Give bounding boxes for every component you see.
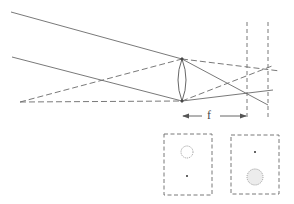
lens — [178, 58, 186, 102]
right-panel — [231, 135, 279, 194]
left-panel — [164, 134, 212, 195]
focal-length-label: f — [207, 108, 211, 122]
solid-rays — [11, 12, 273, 105]
dashed-rays — [20, 59, 280, 102]
blur-circle — [247, 169, 263, 185]
point-image — [254, 151, 256, 153]
blur-circle — [181, 146, 193, 158]
upper-incident-ray — [11, 12, 182, 59]
near-source-axis-ray — [20, 101, 182, 102]
lower-incident-ray — [12, 57, 182, 101]
optics-diagram — [0, 0, 294, 204]
near-source-upper-refracted — [182, 59, 280, 71]
point-image — [186, 175, 188, 177]
upper-refracted-ray — [182, 59, 268, 105]
